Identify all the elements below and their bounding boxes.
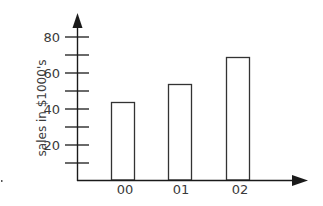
stray-mark (1, 180, 3, 182)
y-tick-label-80: 80 (43, 30, 60, 45)
bar-01 (169, 85, 192, 181)
y-tick-label-40: 40 (43, 102, 60, 117)
y-tick-label-60: 60 (43, 66, 60, 81)
x-tick-label-01: 01 (173, 182, 190, 197)
bars (112, 58, 250, 181)
y-tick-label-20: 20 (43, 138, 60, 153)
x-tick-label-02: 02 (232, 182, 249, 197)
x-tick-label-00: 00 (117, 182, 134, 197)
bar-02 (227, 58, 250, 181)
x-axis-arrow-icon (292, 175, 308, 186)
bar-chart: sales in $1000's 80 60 40 20 00 01 02 (0, 0, 323, 206)
y-axis-arrow-icon (73, 13, 83, 28)
bar-00 (112, 103, 135, 181)
